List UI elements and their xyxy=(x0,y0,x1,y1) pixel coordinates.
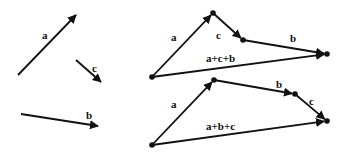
label-top-a: a xyxy=(171,32,177,43)
bottom-a-arrow xyxy=(152,82,212,145)
top-point-1 xyxy=(210,10,216,16)
label-top-sum: a+c+b xyxy=(206,53,235,64)
bottom-point-2 xyxy=(292,91,298,97)
top-sum-arrow xyxy=(152,54,324,77)
top-point-0 xyxy=(149,74,155,80)
label-top-b: b xyxy=(290,33,296,44)
label-bottom-sum: a+b+c xyxy=(206,121,235,132)
bottom-point-1 xyxy=(211,77,217,83)
vector-drawing xyxy=(0,0,345,154)
bottom-point-0 xyxy=(149,142,155,148)
label-bottom-a: a xyxy=(171,99,177,110)
bottom-point-3 xyxy=(324,118,330,124)
label-free-c: c xyxy=(92,63,97,74)
top-b-arrow xyxy=(243,40,324,54)
label-free-a: a xyxy=(42,30,48,41)
label-free-b: b xyxy=(86,110,92,121)
bottom-sum-arrow xyxy=(152,121,324,145)
vector-a-arrow xyxy=(18,15,76,75)
top-point-2 xyxy=(240,37,246,43)
top-a-arrow xyxy=(152,15,211,77)
vector-c-arrow xyxy=(76,60,101,82)
label-bottom-c: c xyxy=(309,96,314,107)
vector-addition-diagram: a c b a c b a+c+b a b c a+b+c xyxy=(0,0,345,154)
label-bottom-b: b xyxy=(276,79,282,90)
top-point-3 xyxy=(324,51,330,57)
label-top-c: c xyxy=(216,30,221,41)
